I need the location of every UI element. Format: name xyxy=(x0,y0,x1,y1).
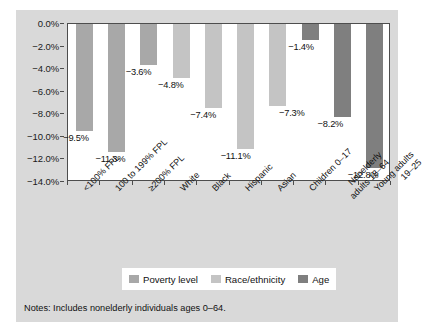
legend-swatch-icon xyxy=(211,275,221,283)
legend-item: Poverty level xyxy=(129,274,198,285)
y-tick-mark xyxy=(60,91,64,92)
legend-label: Race/ethnicity xyxy=(225,274,285,285)
bar-value-label: −3.6% xyxy=(126,67,152,77)
y-tick-mark xyxy=(60,113,64,114)
legend-label: Poverty level xyxy=(143,274,198,285)
bar-value-label: −11.1% xyxy=(221,151,251,161)
chart-notes: Notes: Includes nonelderly individuals a… xyxy=(24,303,226,313)
y-tick-mark xyxy=(60,23,64,24)
x-axis-labels: <100% FPL100 to 199% FPL≥200% FPLWhiteBl… xyxy=(67,186,397,258)
y-tick-label: −8.0% xyxy=(32,108,59,119)
bar-value-label: −8.2% xyxy=(318,119,344,129)
y-tick-mark xyxy=(60,46,64,47)
bar xyxy=(76,24,93,131)
bar-value-label: −1.4% xyxy=(288,42,314,52)
y-tick-label: −12.0% xyxy=(27,153,59,164)
bar-value-label: −9.5% xyxy=(63,133,89,143)
y-axis: 0.0%−2.0%−4.0%−6.0%−8.0%−10.0%−12.0%−14.… xyxy=(16,23,64,181)
y-tick-label: −14.0% xyxy=(27,176,59,187)
x-tick-mark xyxy=(67,181,68,185)
bar xyxy=(237,24,254,149)
bar-value-label: −7.3% xyxy=(279,108,305,118)
y-tick-mark xyxy=(60,158,64,159)
bar xyxy=(173,24,190,78)
bar xyxy=(205,24,222,108)
legend-item: Race/ethnicity xyxy=(211,274,285,285)
legend-label: Age xyxy=(312,274,329,285)
bar xyxy=(269,24,286,106)
y-tick-label: −10.0% xyxy=(27,130,59,141)
chart-legend: Poverty levelRace/ethnicityAge xyxy=(122,268,336,290)
legend-swatch-icon xyxy=(129,275,139,283)
bar xyxy=(302,24,319,40)
y-tick-label: −2.0% xyxy=(32,40,59,51)
bar xyxy=(140,24,157,65)
legend-item: Age xyxy=(298,274,329,285)
bar-value-label: −7.4% xyxy=(190,110,216,120)
legend-swatch-icon xyxy=(298,275,308,283)
bar xyxy=(108,24,125,152)
y-tick-mark xyxy=(60,68,64,69)
y-tick-label: −4.0% xyxy=(32,63,59,74)
bar xyxy=(366,24,383,168)
bar xyxy=(334,24,351,117)
y-tick-mark xyxy=(60,181,64,182)
bar-value-label: −4.8% xyxy=(158,80,184,90)
y-tick-label: 0.0% xyxy=(38,18,59,29)
y-tick-label: −6.0% xyxy=(32,85,59,96)
